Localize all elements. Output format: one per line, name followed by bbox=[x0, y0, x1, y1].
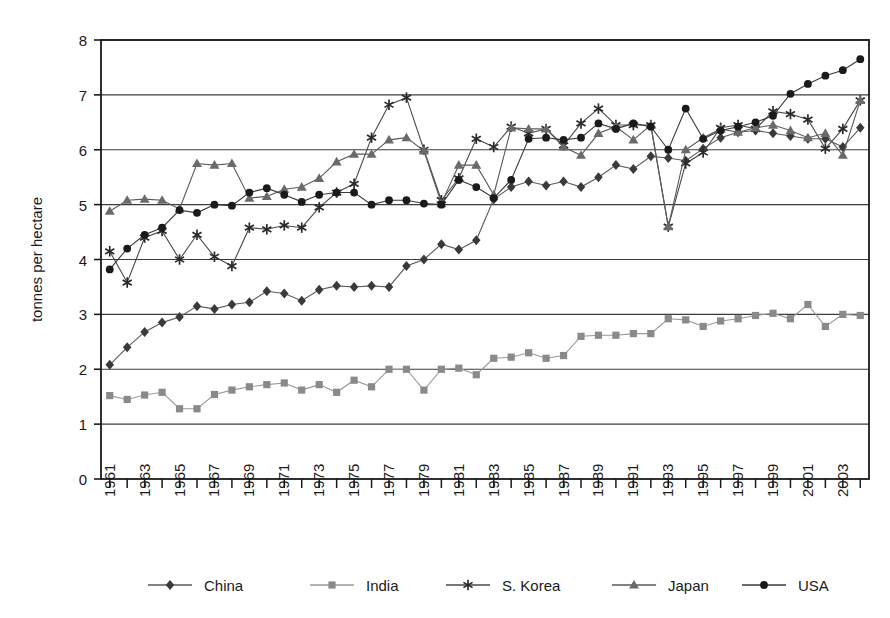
square-marker bbox=[542, 355, 549, 362]
data-point-diamond bbox=[455, 245, 464, 255]
data-point-circle bbox=[577, 134, 585, 142]
data-point-triangle bbox=[820, 128, 830, 137]
circle-marker bbox=[228, 202, 236, 210]
square-marker bbox=[560, 352, 567, 359]
data-point-triangle bbox=[855, 95, 865, 104]
diamond-marker bbox=[455, 245, 464, 255]
data-point-square bbox=[176, 405, 183, 412]
x-axis-tick-label: 1983 bbox=[485, 464, 502, 497]
y-axis-tick-label: 2 bbox=[79, 361, 87, 378]
triangle-marker bbox=[454, 160, 464, 169]
circle-marker bbox=[280, 191, 288, 199]
data-point-circle bbox=[315, 191, 323, 199]
data-point-square bbox=[560, 352, 567, 359]
circle-marker bbox=[821, 72, 829, 80]
data-point-asterisk bbox=[472, 134, 481, 145]
data-point-circle bbox=[490, 194, 498, 202]
circle-marker bbox=[333, 189, 341, 197]
x-axis-tick-label: 1979 bbox=[415, 464, 432, 497]
data-point-circle bbox=[176, 206, 184, 214]
series-japan bbox=[105, 95, 866, 230]
triangle-marker bbox=[401, 133, 411, 142]
data-point-circle bbox=[141, 231, 149, 239]
square-marker bbox=[525, 349, 532, 356]
data-point-triangle bbox=[401, 133, 411, 142]
data-point-square bbox=[328, 581, 335, 588]
x-axis-tick-label: 1961 bbox=[101, 464, 118, 497]
data-point-square bbox=[281, 379, 288, 386]
legend: ChinaIndiaS. KoreaJapanUSA bbox=[148, 577, 829, 594]
legend-label: USA bbox=[798, 577, 829, 594]
x-axis-tick-label: 1985 bbox=[520, 464, 537, 497]
data-point-triangle bbox=[332, 157, 342, 166]
series-china bbox=[105, 123, 864, 370]
data-point-square bbox=[385, 366, 392, 373]
data-point-triangle bbox=[541, 124, 551, 133]
y-axis-tick-label: 3 bbox=[79, 306, 87, 323]
data-point-square bbox=[595, 332, 602, 339]
circle-marker bbox=[176, 206, 184, 214]
data-point-diamond bbox=[664, 153, 673, 163]
circle-marker bbox=[629, 120, 637, 128]
legend-item-china[interactable]: China bbox=[148, 577, 244, 594]
series-line bbox=[110, 128, 861, 365]
data-point-square bbox=[542, 355, 549, 362]
data-point-asterisk bbox=[105, 246, 114, 256]
circle-marker bbox=[542, 134, 550, 142]
triangle-marker bbox=[628, 135, 638, 144]
data-point-square bbox=[612, 332, 619, 339]
data-point-asterisk bbox=[227, 261, 236, 272]
data-point-triangle bbox=[629, 580, 639, 589]
diamond-marker bbox=[367, 281, 376, 291]
data-point-circle bbox=[734, 123, 742, 131]
data-point-square bbox=[490, 355, 497, 362]
circle-marker bbox=[158, 224, 166, 232]
data-point-circle bbox=[437, 201, 445, 209]
data-point-circle bbox=[752, 118, 760, 126]
diamond-marker bbox=[647, 151, 656, 161]
data-point-diamond bbox=[769, 128, 778, 138]
legend-item-s-korea[interactable]: S. Korea bbox=[446, 577, 561, 594]
x-axis-tick-label: 1981 bbox=[450, 464, 467, 497]
data-point-square bbox=[350, 377, 357, 384]
y-axis-tick-label: 6 bbox=[79, 142, 87, 159]
diamond-marker bbox=[594, 172, 603, 182]
data-point-triangle bbox=[681, 145, 691, 154]
data-point-square bbox=[333, 389, 340, 396]
circle-marker bbox=[647, 123, 655, 131]
circle-marker bbox=[699, 135, 707, 143]
data-point-square bbox=[316, 381, 323, 388]
circle-marker bbox=[123, 245, 131, 253]
x-axis-tick-label: 1973 bbox=[310, 464, 327, 497]
diamond-marker bbox=[263, 286, 272, 296]
circle-marker bbox=[734, 123, 742, 131]
legend-item-usa[interactable]: USA bbox=[742, 577, 829, 594]
square-marker bbox=[665, 315, 672, 322]
triangle-marker bbox=[768, 120, 778, 129]
square-marker bbox=[158, 389, 165, 396]
data-point-diamond bbox=[193, 301, 202, 311]
diamond-marker bbox=[577, 182, 586, 192]
data-point-triangle bbox=[349, 149, 359, 158]
square-marker bbox=[211, 391, 218, 398]
y-axis-tick-label: 5 bbox=[79, 197, 87, 214]
diamond-marker bbox=[664, 153, 673, 163]
square-marker bbox=[246, 383, 253, 390]
legend-item-india[interactable]: India bbox=[310, 577, 399, 594]
data-point-square bbox=[577, 333, 584, 340]
circle-marker bbox=[263, 184, 271, 192]
data-point-square bbox=[403, 366, 410, 373]
x-axis-tick-label: 1965 bbox=[171, 464, 188, 497]
legend-item-japan[interactable]: Japan bbox=[612, 577, 709, 594]
square-marker bbox=[328, 581, 335, 588]
data-point-square bbox=[839, 311, 846, 318]
data-point-circle bbox=[350, 189, 358, 197]
circle-marker bbox=[193, 209, 201, 217]
data-point-square bbox=[263, 381, 270, 388]
circle-marker bbox=[612, 125, 620, 133]
square-marker bbox=[455, 365, 462, 372]
circle-marker bbox=[577, 134, 585, 142]
data-point-diamond bbox=[524, 177, 533, 187]
data-point-circle bbox=[280, 191, 288, 199]
data-point-circle bbox=[193, 209, 201, 217]
